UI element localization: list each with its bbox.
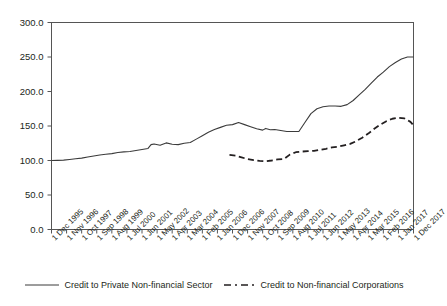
chart-axes	[48, 23, 414, 234]
y-axis-tick-label: 0.0	[0, 225, 44, 235]
chart-legend: Credit to Private Non-financial Sector C…	[0, 280, 428, 290]
y-axis-tick-label: 250.0	[0, 52, 44, 62]
legend-label-nonfinancial-corporations: Credit to Non-financial Corporations	[261, 280, 404, 290]
legend-label-private-nonfinancial-sector: Credit to Private Non-financial Sector	[64, 280, 212, 290]
y-axis-tick-label: 50.0	[0, 190, 44, 200]
y-axis-tick-label: 300.0	[0, 18, 44, 28]
chart-series	[52, 57, 414, 161]
series-line-1	[229, 118, 413, 161]
legend-entry-nonfinancial-corporations: Credit to Non-financial Corporations	[223, 280, 404, 290]
legend-entry-private-nonfinancial-sector: Credit to Private Non-financial Sector	[24, 280, 212, 290]
legend-swatch-solid-icon	[24, 280, 60, 290]
y-axis-tick-label: 150.0	[0, 121, 44, 131]
y-axis-tick-label: 100.0	[0, 156, 44, 166]
series-line-0	[52, 57, 414, 161]
legend-swatch-dashed-icon	[223, 280, 257, 290]
y-axis-tick-label: 200.0	[0, 87, 44, 97]
